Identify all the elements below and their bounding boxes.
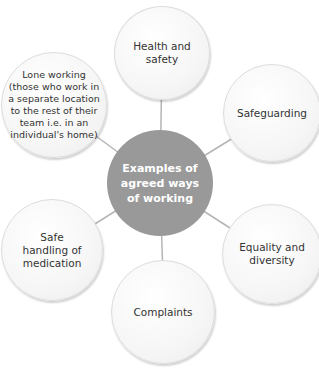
center-label: Examples of agreed ways of working	[112, 161, 208, 206]
node-label: Complaints	[127, 306, 198, 319]
center-node: Examples of agreed ways of working	[107, 130, 213, 236]
node-label: Safeguarding	[231, 107, 313, 120]
node-label: Safe handling of medication	[11, 231, 93, 270]
node-complaints: Complaints	[111, 260, 215, 364]
node-safe-handling-of-medication: Safe handling of medication	[1, 199, 103, 301]
node-safeguarding: Safeguarding	[223, 64, 319, 162]
node-label: Lone working (those who work in a separa…	[2, 69, 106, 141]
node-lone-working: Lone working (those who work in a separa…	[1, 52, 107, 158]
node-health-and-safety: Health and safety	[114, 6, 210, 100]
node-equality-and-diversity: Equality and diversity	[222, 204, 319, 304]
node-label: Equality and diversity	[231, 241, 313, 267]
node-label: Health and safety	[121, 40, 203, 66]
